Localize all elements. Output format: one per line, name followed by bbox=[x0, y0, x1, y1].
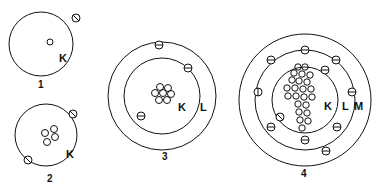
nucleus bbox=[152, 84, 175, 104]
label-shell-l: L bbox=[200, 101, 207, 113]
label-atom-3: 3 bbox=[162, 151, 168, 162]
atom-4 bbox=[239, 34, 371, 166]
atom-3 bbox=[108, 41, 216, 150]
nucleus bbox=[284, 64, 315, 131]
label-shell-k: K bbox=[324, 100, 332, 112]
label-shell-k: K bbox=[66, 148, 74, 160]
label-atom-1: 1 bbox=[38, 79, 44, 90]
label-shell-m: M bbox=[354, 100, 363, 112]
label-shell-l: L bbox=[342, 100, 349, 112]
nucleus bbox=[42, 126, 59, 146]
atomic-models-diagram: K 1 K 2 K L 3 K L M 4 bbox=[0, 0, 384, 188]
label-shell-k: K bbox=[178, 101, 186, 113]
label-atom-2: 2 bbox=[47, 173, 53, 184]
label-shell-k: K bbox=[59, 52, 67, 64]
nucleus bbox=[47, 39, 53, 45]
atom-1 bbox=[9, 12, 80, 76]
shell-k bbox=[9, 12, 73, 76]
label-atom-4: 4 bbox=[301, 168, 307, 179]
